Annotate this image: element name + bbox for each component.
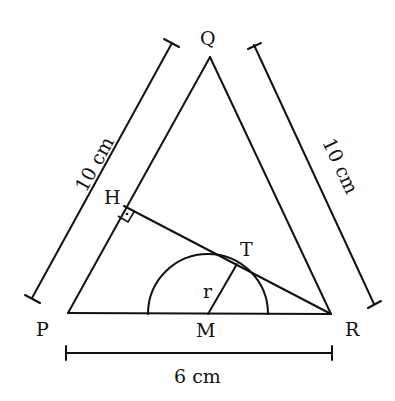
right-angle-dot xyxy=(126,213,129,216)
geometry-diagram: Q P R H T M r 10 cm 10 cm 6 cm xyxy=(0,0,395,401)
segment-rh xyxy=(124,206,331,314)
label-r: R xyxy=(345,318,360,340)
label-p: P xyxy=(36,318,49,340)
radius-mt xyxy=(208,264,237,314)
dimension-qr xyxy=(248,43,381,308)
dimension-label-pr: 6 cm xyxy=(174,365,221,387)
label-t: T xyxy=(240,238,253,260)
label-m: M xyxy=(196,319,215,341)
side-qr xyxy=(210,57,331,314)
label-radius: r xyxy=(203,280,213,302)
side-pr xyxy=(68,313,331,314)
label-h: H xyxy=(104,186,121,208)
label-q: Q xyxy=(200,27,216,49)
dimension-label-qr: 10 cm xyxy=(318,134,363,197)
dimension-pr xyxy=(66,346,332,360)
